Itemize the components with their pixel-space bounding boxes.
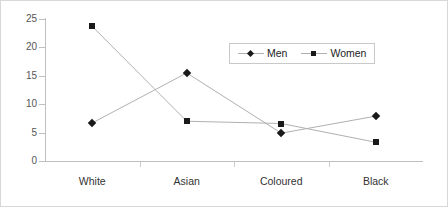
x-tick <box>329 162 330 167</box>
y-tick-25 <box>39 19 45 20</box>
y-tick-label: 15 <box>1 71 37 81</box>
y-axis-line <box>45 18 46 162</box>
x-tick <box>140 162 141 167</box>
legend-label-women: Women <box>330 48 366 59</box>
y-tick-label: 10 <box>1 99 37 109</box>
y-tick-0 <box>39 161 45 162</box>
y-tick-5 <box>39 133 45 134</box>
data-point-men-asian <box>183 69 191 77</box>
y-tick-20 <box>39 47 45 48</box>
y-tick-15 <box>39 76 45 77</box>
data-point-men-coloured <box>277 129 285 137</box>
y-tick-label: 20 <box>1 42 37 52</box>
x-axis-label-white: White <box>45 175 140 187</box>
legend-marker-diamond-icon <box>238 49 264 58</box>
data-point-men-white <box>88 119 96 127</box>
line-chart: 0510152025 WhiteAsianColouredBlack Men W… <box>0 0 448 207</box>
legend-entry-women: Women <box>301 48 366 59</box>
chart-legend: Men Women <box>229 43 375 64</box>
x-axis-label-coloured: Coloured <box>234 175 329 187</box>
legend-label-men: Men <box>267 48 287 59</box>
series-line-men <box>92 73 376 133</box>
y-tick-10 <box>39 104 45 105</box>
x-axis-label-asian: Asian <box>140 175 235 187</box>
data-point-women-white <box>89 23 95 29</box>
data-point-women-black <box>373 139 379 145</box>
x-tick <box>234 162 235 167</box>
y-tick-label: 5 <box>1 128 37 138</box>
legend-marker-square-icon <box>301 49 327 58</box>
y-tick-label: 25 <box>1 14 37 24</box>
data-point-women-asian <box>184 118 190 124</box>
x-axis-label-black: Black <box>329 175 424 187</box>
legend-entry-men: Men <box>238 48 287 59</box>
data-point-women-coloured <box>278 121 284 127</box>
data-point-men-black <box>372 112 380 120</box>
y-tick-label: 0 <box>1 156 37 166</box>
